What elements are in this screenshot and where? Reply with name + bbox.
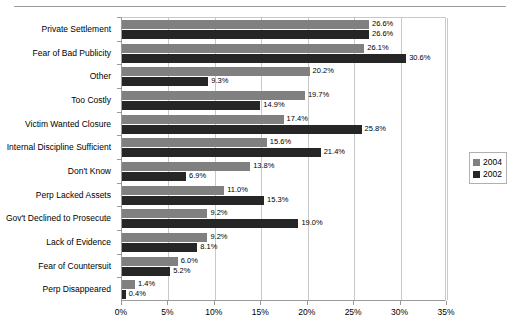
bar-value-label: 1.4%	[138, 279, 155, 288]
bar-2002	[122, 54, 406, 63]
value-axis-tick-label: 15%	[252, 307, 269, 317]
bar-value-label: 9.3%	[211, 76, 228, 85]
bar-value-label: 21.4%	[324, 147, 345, 156]
value-axis-tick-label: 30%	[391, 307, 408, 317]
bar-2004	[122, 67, 310, 76]
value-axis-tick-label: 10%	[205, 307, 222, 317]
value-axis-tick	[260, 301, 261, 305]
category-label: Victim Wanted Closure	[25, 112, 111, 136]
bar-2004	[122, 233, 207, 242]
value-axis-tick	[167, 301, 168, 305]
category-label: Fear of Countersuit	[38, 254, 111, 278]
chart-figure: Private SettlementFear of Bad PublicityO…	[0, 0, 518, 335]
bar-value-label: 14.9%	[263, 100, 284, 109]
bar-row: 17.4%25.8%	[122, 113, 445, 137]
bar-value-label: 20.2%	[313, 66, 334, 75]
bar-value-label: 19.7%	[308, 90, 329, 99]
value-axis-tick-label: 5%	[161, 307, 173, 317]
bar-2002	[122, 219, 298, 228]
category-label: Perp Disappeared	[42, 277, 111, 301]
category-label: Don't Know	[68, 159, 111, 183]
bar-2004	[122, 138, 267, 147]
bar-value-label: 9.2%	[210, 232, 227, 241]
value-axis-tick	[307, 301, 308, 305]
value-axis-tick-label: 0%	[115, 307, 127, 317]
bar-2004	[122, 20, 369, 29]
bar-value-label: 8.1%	[200, 242, 217, 251]
category-label: Fear of Bad Publicity	[33, 41, 111, 65]
bar-value-label: 5.2%	[173, 266, 190, 275]
value-axis-tick	[121, 301, 122, 305]
gridline	[447, 18, 448, 300]
bar-row: 6.0%5.2%	[122, 255, 445, 279]
plot-area: 26.6%26.6%26.1%30.6%20.2%9.3%19.7%14.9%1…	[121, 17, 446, 301]
value-axis-tick	[353, 301, 354, 305]
bar-row: 26.1%30.6%	[122, 42, 445, 66]
bar-row: 13.8%6.9%	[122, 160, 445, 184]
legend-label: 2004	[483, 156, 502, 168]
category-label: Other	[90, 64, 111, 88]
bar-2002	[122, 30, 369, 39]
bar-row: 9.2%8.1%	[122, 231, 445, 255]
bar-value-label: 15.3%	[267, 195, 288, 204]
category-label: Private Settlement	[42, 17, 111, 41]
bar-value-label: 9.2%	[210, 208, 227, 217]
bar-2004	[122, 115, 284, 124]
value-axis-tick	[446, 301, 447, 305]
bar-2002	[122, 148, 321, 157]
value-axis-tick	[400, 301, 401, 305]
value-axis-tick-label: 25%	[345, 307, 362, 317]
bar-value-label: 30.6%	[409, 53, 430, 62]
bar-2004	[122, 209, 207, 218]
bar-value-label: 26.6%	[372, 29, 393, 38]
legend-item-2004[interactable]: 2004	[473, 156, 502, 168]
category-label: Perp Lacked Assets	[36, 183, 111, 207]
bar-row: 15.6%21.4%	[122, 136, 445, 160]
bar-2004	[122, 44, 364, 53]
value-axis-tick-label: 20%	[298, 307, 315, 317]
bar-2004	[122, 162, 250, 171]
bar-rows: 26.6%26.6%26.1%30.6%20.2%9.3%19.7%14.9%1…	[122, 18, 445, 300]
bar-value-label: 15.6%	[270, 137, 291, 146]
bar-value-label: 0.4%	[129, 289, 146, 298]
bar-value-label: 26.1%	[367, 43, 388, 52]
bar-value-label: 19.0%	[301, 218, 322, 227]
value-axis: 0%5%10%15%20%25%30%35%	[0, 301, 518, 321]
value-axis-tick	[214, 301, 215, 305]
bar-row: 19.7%14.9%	[122, 89, 445, 113]
bar-row: 9.2%19.0%	[122, 207, 445, 231]
bar-value-label: 13.8%	[253, 161, 274, 170]
legend-label: 2002	[483, 168, 502, 180]
bar-value-label: 6.0%	[181, 256, 198, 265]
bar-2002	[122, 290, 126, 299]
category-label: Internal Discipline Sufficient	[7, 135, 111, 159]
bar-value-label: 11.0%	[227, 185, 248, 194]
category-axis: Private SettlementFear of Bad PublicityO…	[0, 17, 117, 301]
bar-value-label: 25.8%	[365, 124, 386, 133]
legend-swatch-icon	[473, 171, 480, 178]
bar-2002	[122, 125, 362, 134]
bar-2002	[122, 196, 264, 205]
top-divider-rule	[14, 6, 506, 7]
category-label: Lack of Evidence	[46, 230, 111, 254]
value-axis-tick-label: 35%	[437, 307, 454, 317]
bar-2004	[122, 186, 224, 195]
bar-value-label: 17.4%	[287, 114, 308, 123]
legend: 20042002	[469, 152, 507, 184]
bar-value-label: 6.9%	[189, 171, 206, 180]
legend-item-2002[interactable]: 2002	[473, 168, 502, 180]
legend-swatch-icon	[473, 159, 480, 166]
bar-2004	[122, 91, 305, 100]
bar-row: 26.6%26.6%	[122, 18, 445, 42]
bar-2002	[122, 101, 260, 110]
bar-2002	[122, 267, 170, 276]
bar-row: 11.0%15.3%	[122, 184, 445, 208]
bar-2002	[122, 243, 197, 252]
category-label: Gov't Declined to Prosecute	[6, 206, 111, 230]
bar-2004	[122, 280, 135, 289]
category-label: Too Costly	[71, 88, 111, 112]
bar-value-label: 26.6%	[372, 19, 393, 28]
bar-row: 20.2%9.3%	[122, 65, 445, 89]
bar-2002	[122, 77, 208, 86]
bar-row: 1.4%0.4%	[122, 278, 445, 302]
